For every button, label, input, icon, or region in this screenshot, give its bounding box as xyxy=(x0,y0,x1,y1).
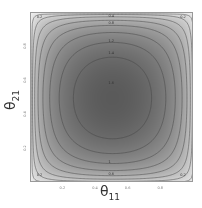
contour-label: 0.2 xyxy=(180,173,186,177)
y-tick-label: 0.4 xyxy=(23,111,27,117)
y-tick-label: 0.8 xyxy=(23,43,27,49)
y-axis-label: θ21 xyxy=(2,90,21,110)
contour-label: 0.8 xyxy=(109,21,115,25)
x-axis-label: θ11 xyxy=(100,183,120,202)
y-tick-label: 0.6 xyxy=(23,77,27,83)
contour-label: 1 xyxy=(109,160,111,164)
contour-plot-area xyxy=(30,12,193,182)
x-tick-label: 0.2 xyxy=(60,186,66,190)
contour-label: 0.2 xyxy=(37,15,43,19)
x-tick-label: 0.8 xyxy=(157,186,163,190)
contour-label: 0.2 xyxy=(37,173,43,177)
contour-label: 1.2 xyxy=(109,39,115,43)
y-tick-label: 0.2 xyxy=(23,145,27,151)
x-tick-label: 0.4 xyxy=(92,186,98,190)
contour-label: 1.4 xyxy=(109,51,115,55)
contour-label: 0.6 xyxy=(109,172,115,176)
contour-label: 1.6 xyxy=(109,81,115,85)
contour-label: 0.4 xyxy=(109,14,115,18)
contour-label: 0.2 xyxy=(180,15,186,19)
x-tick-label: 0.6 xyxy=(125,186,131,190)
